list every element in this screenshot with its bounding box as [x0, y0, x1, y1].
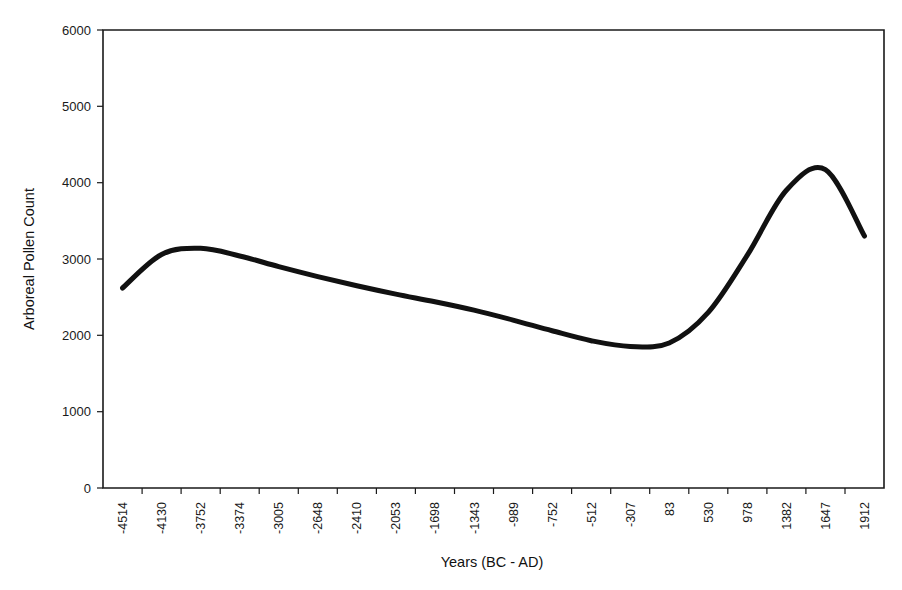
y-tick-label: 2000	[62, 328, 91, 343]
chart-canvas: 0 1000 2000 3000 4000 5000 6000 Arboreal…	[0, 0, 902, 590]
x-tick-label: -3374	[233, 502, 247, 534]
x-axis-title: Years (BC - AD)	[441, 554, 544, 570]
x-tick-label: -2410	[350, 502, 364, 534]
x-tick-label: -2648	[311, 502, 325, 534]
x-tick-label: -4514	[116, 502, 130, 534]
y-tick-label: 6000	[62, 23, 91, 38]
x-tick-label: 1382	[780, 502, 794, 530]
x-axis-tick-labels: -4514 -4130 -3752 -3374 -3005 -2648 -241…	[116, 502, 872, 534]
x-tick-label: -2053	[389, 502, 403, 534]
x-tick-label: -1343	[468, 502, 482, 534]
x-tick-label: 83	[663, 502, 677, 516]
x-tick-label: -1698	[428, 502, 442, 534]
x-tick-label: 530	[702, 502, 716, 523]
plot-frame	[103, 30, 884, 488]
pollen-count-chart: 0 1000 2000 3000 4000 5000 6000 Arboreal…	[0, 0, 902, 590]
y-axis-title: Arboreal Pollen Count	[21, 188, 37, 330]
x-tick-label: 978	[741, 502, 755, 523]
x-axis-ticks	[142, 488, 845, 494]
x-tick-label: -3752	[194, 502, 208, 534]
x-tick-label: -752	[546, 502, 560, 527]
x-tick-label: -307	[624, 502, 638, 527]
x-tick-label: -989	[507, 502, 521, 527]
y-tick-label: 4000	[62, 175, 91, 190]
y-axis-tick-labels: 0 1000 2000 3000 4000 5000 6000	[62, 23, 91, 496]
x-tick-label: -3005	[272, 502, 286, 534]
x-tick-label: -512	[585, 502, 599, 527]
pollen-count-line	[123, 168, 865, 347]
x-tick-label: -4130	[155, 502, 169, 534]
x-tick-label: 1912	[858, 502, 872, 530]
y-tick-label: 3000	[62, 252, 91, 267]
y-tick-label: 1000	[62, 404, 91, 419]
x-tick-label: 1647	[819, 502, 833, 530]
y-axis-ticks	[97, 30, 103, 488]
y-tick-label: 5000	[62, 99, 91, 114]
y-tick-label: 0	[84, 481, 91, 496]
